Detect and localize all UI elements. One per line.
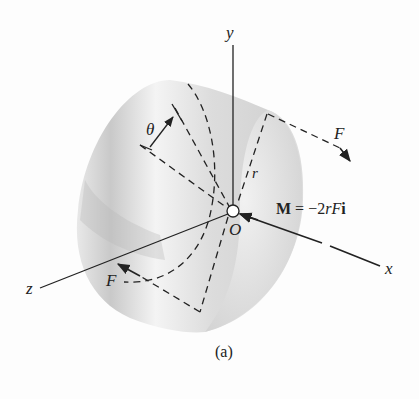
cylinder-body	[77, 80, 303, 332]
figure-canvas: y x z O θ r F F M = −2rFi (a)	[0, 0, 419, 399]
figure-caption: (a)	[215, 344, 233, 360]
force-bottom-label: F	[106, 272, 116, 289]
cylinder-diagram	[0, 0, 419, 399]
x-axis-label: x	[385, 260, 393, 277]
x-axis-line-outer	[330, 246, 380, 266]
force-top-arrow	[340, 148, 350, 161]
theta-label: θ	[146, 121, 154, 138]
moment-label: M = −2rFi	[276, 201, 346, 217]
origin-point	[227, 205, 239, 217]
force-top-label: F	[334, 125, 344, 142]
y-axis-label: y	[226, 24, 234, 41]
origin-label: O	[229, 221, 241, 238]
z-axis-label: z	[26, 280, 33, 297]
radius-label: r	[252, 166, 258, 181]
